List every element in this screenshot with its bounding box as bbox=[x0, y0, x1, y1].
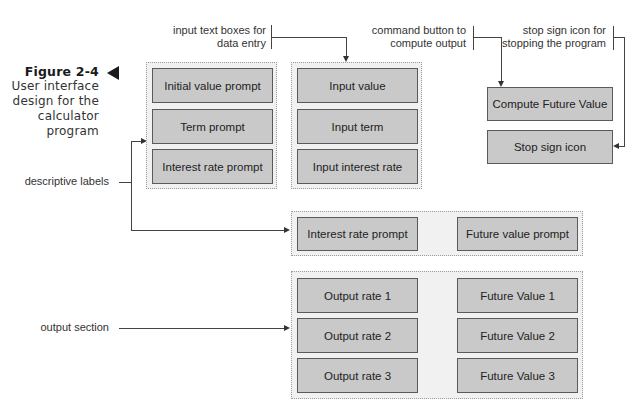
arrow-right-icon bbox=[284, 325, 290, 331]
annotation-line: input text boxes for bbox=[173, 24, 266, 37]
annotation-descriptive-labels: descriptive labels bbox=[25, 175, 109, 188]
caption-line: program bbox=[0, 124, 99, 139]
figure-caption: Figure 2-4 User interface design for the… bbox=[0, 64, 99, 139]
input-group: Input value Input term Input interest ra… bbox=[291, 62, 422, 189]
arrow-left-icon bbox=[613, 143, 619, 149]
label-group: Initial value prompt Term prompt Interes… bbox=[146, 62, 277, 189]
connector-labels-top bbox=[131, 141, 141, 142]
connector-command-h bbox=[473, 37, 502, 38]
caption-line: design for the bbox=[0, 94, 99, 109]
connector-output bbox=[119, 328, 284, 329]
annotation-line: stop sign icon for bbox=[502, 24, 606, 37]
future-value-3: Future Value 3 bbox=[457, 358, 578, 393]
stop-sign-icon-button[interactable]: Stop sign icon bbox=[487, 130, 613, 164]
caption-line: calculator bbox=[0, 109, 99, 124]
future-value-prompt-header: Future value prompt bbox=[457, 217, 578, 251]
connector-stop-v bbox=[624, 37, 625, 147]
output-rate-1: Output rate 1 bbox=[297, 278, 418, 313]
annotation-line: compute output bbox=[372, 37, 466, 50]
input-value-field[interactable]: Input value bbox=[297, 68, 418, 103]
connector-input-v bbox=[346, 37, 347, 56]
bracket-stop bbox=[613, 26, 614, 50]
annotation-output-section: output section bbox=[41, 321, 110, 334]
annotation-stop-icon: stop sign icon for stopping the program bbox=[502, 24, 606, 50]
input-term-field[interactable]: Input term bbox=[297, 109, 418, 144]
initial-value-prompt-label: Initial value prompt bbox=[152, 68, 273, 103]
annotation-line: data entry bbox=[173, 37, 266, 50]
term-prompt-label: Term prompt bbox=[152, 109, 273, 144]
connector-labels-v bbox=[131, 141, 132, 231]
caption-line: User interface bbox=[0, 79, 99, 94]
compute-future-value-button[interactable]: Compute Future Value bbox=[487, 87, 613, 121]
future-value-2: Future Value 2 bbox=[457, 318, 578, 353]
future-value-1: Future Value 1 bbox=[457, 278, 578, 313]
bracket-command bbox=[473, 26, 474, 50]
figure-pointer-triangle-icon bbox=[107, 66, 119, 80]
annotation-input-boxes: input text boxes for data entry bbox=[173, 24, 266, 50]
output-rate-2: Output rate 2 bbox=[297, 318, 418, 353]
annotation-line: stopping the program bbox=[502, 37, 606, 50]
output-rate-3: Output rate 3 bbox=[297, 358, 418, 393]
output-header-group: Interest rate prompt Future value prompt bbox=[291, 211, 583, 256]
arrow-right-icon bbox=[284, 227, 290, 233]
interest-rate-prompt-label: Interest rate prompt bbox=[152, 149, 273, 184]
input-interest-rate-field[interactable]: Input interest rate bbox=[297, 149, 418, 184]
connector-labels-bottom bbox=[131, 230, 284, 231]
figure-number: Figure 2-4 bbox=[0, 64, 99, 79]
connector-input-h bbox=[271, 37, 347, 38]
interest-rate-prompt-header: Interest rate prompt bbox=[297, 217, 418, 251]
annotation-command-button: command button to compute output bbox=[372, 24, 466, 50]
connector-stop-h2 bbox=[619, 146, 625, 147]
output-group: Output rate 1 Output rate 2 Output rate … bbox=[291, 271, 583, 399]
annotation-line: command button to bbox=[372, 24, 466, 37]
